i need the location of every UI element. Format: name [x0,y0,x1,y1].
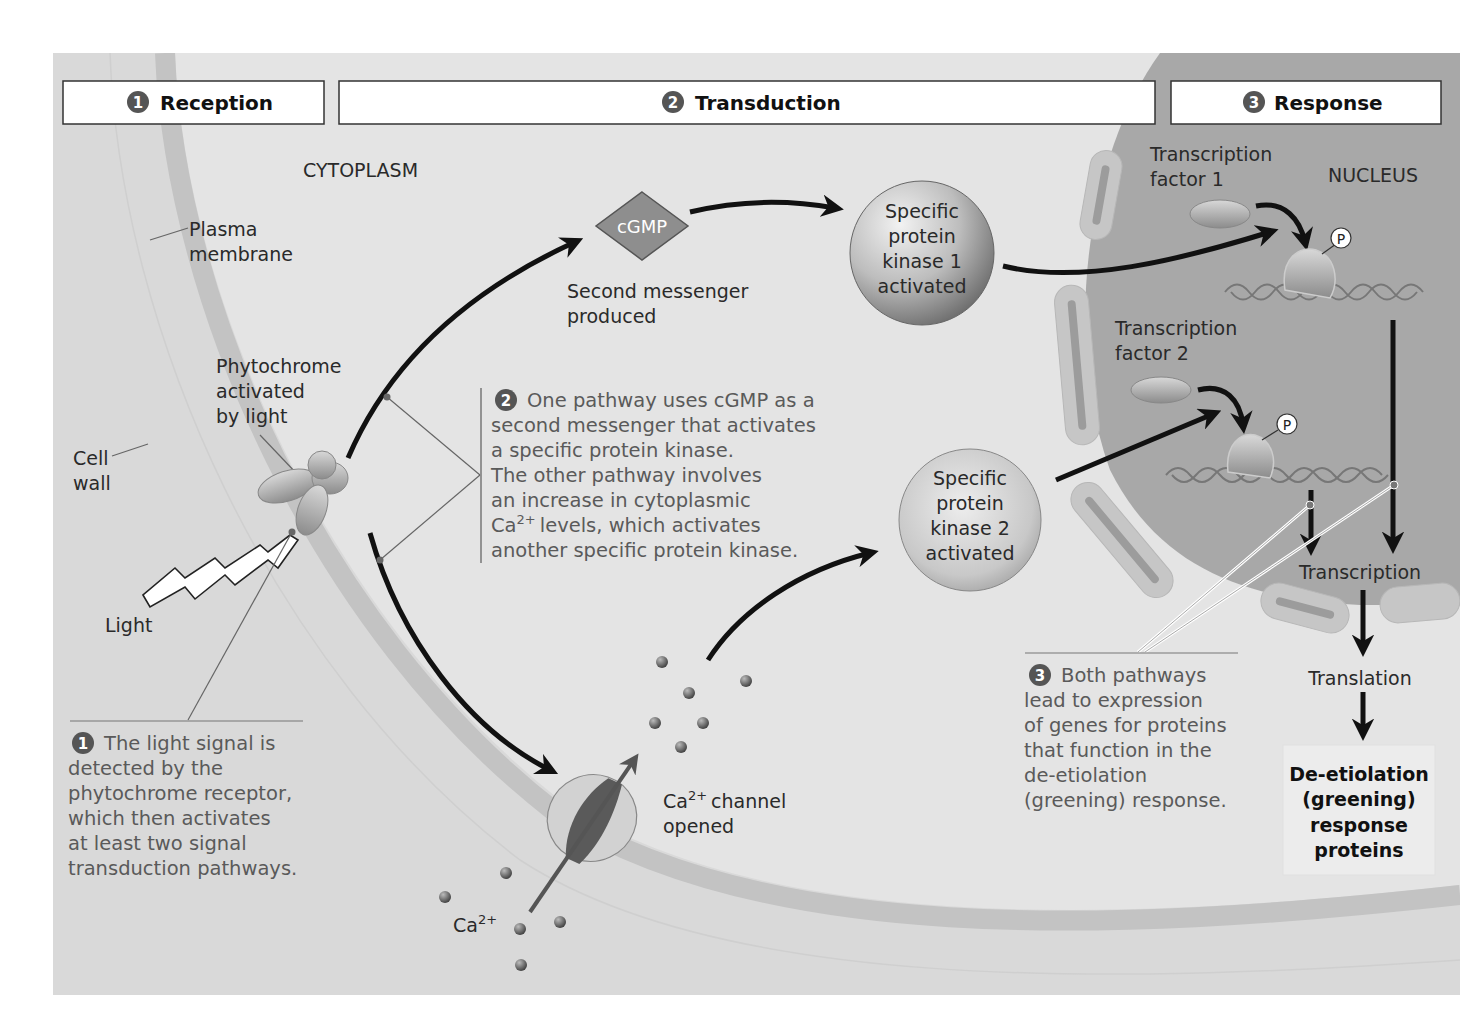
svg-text:lead to expression: lead to expression [1024,689,1203,712]
ca-channel-label-line1: Ca2+channel [663,788,786,812]
svg-text:kinase 1: kinase 1 [882,250,962,272]
header-reception: 1 Reception [63,81,324,124]
tf1-label-line2: factor 1 [1150,168,1224,190]
response-proteins-box: De-etiolation (greening) response protei… [1283,745,1435,875]
svg-text:2: 2 [668,94,678,112]
svg-text:kinase 2: kinase 2 [930,517,1010,539]
svg-text:that function in the: that function in the [1024,739,1212,762]
calcium-ion [697,717,709,729]
svg-text:an increase in cytoplasmic: an increase in cytoplasmic [491,489,751,512]
calcium-ion [740,675,752,687]
svg-text:P: P [1283,417,1291,433]
calcium-ion [675,741,687,753]
cell-wall-label-line2: wall [73,472,111,494]
bound-transcription-factor-1 [1284,249,1335,298]
second-messenger-label-line1: Second messenger [567,280,748,302]
calcium-ion [683,687,695,699]
header-label: Reception [160,91,273,115]
cytoplasm-label: CYTOPLASM [303,159,418,181]
calcium-ion [500,867,512,879]
header-transduction: 2 Transduction [339,81,1155,124]
svg-text:The other pathway involves: The other pathway involves [490,464,762,487]
svg-text:Specific: Specific [885,200,959,222]
svg-text:protein: protein [888,225,956,247]
svg-text:activated: activated [878,275,967,297]
svg-text:phytochrome receptor,: phytochrome receptor, [68,782,292,805]
svg-text:De-etiolation: De-etiolation [1289,763,1429,785]
translation-label: Translation [1307,667,1412,689]
svg-text:proteins: proteins [1314,839,1403,861]
calcium-ion [656,656,668,668]
svg-text:Both pathways: Both pathways [1061,664,1206,687]
svg-text:(greening): (greening) [1302,788,1415,810]
tf2-label-line1: Transcription [1114,317,1237,339]
svg-text:1: 1 [78,735,88,753]
svg-text:de-etiolation: de-etiolation [1024,764,1147,787]
protein-kinase-2: Specific protein kinase 2 activated [899,449,1041,591]
transcription-factor-1 [1190,200,1250,228]
svg-text:2: 2 [501,392,511,410]
diagram-stage: 1 Reception 2 Transduction 3 Response CY… [0,0,1473,1011]
svg-text:response: response [1310,814,1408,836]
header-label: Response [1274,91,1383,115]
cgmp-label: cGMP [617,216,667,237]
phytochrome-label-line2: activated [216,380,305,402]
signal-pathway-diagram: 1 Reception 2 Transduction 3 Response CY… [0,0,1473,1011]
svg-text:of genes for proteins: of genes for proteins [1024,714,1227,737]
svg-text:(greening) response.: (greening) response. [1024,789,1227,812]
leader-dot [289,529,296,536]
svg-text:which then activates: which then activates [68,807,271,830]
calcium-ion [649,717,661,729]
transcription-label: Transcription [1298,561,1421,583]
svg-text:another specific protein kinas: another specific protein kinase. [491,539,798,562]
svg-text:One pathway uses cGMP as a: One pathway uses cGMP as a [527,389,815,412]
svg-text:3: 3 [1035,667,1045,685]
svg-text:at least two signal: at least two signal [68,832,247,855]
nucleus-label: NUCLEUS [1328,164,1418,186]
svg-text:3: 3 [1249,94,1259,112]
calcium-ion [554,916,566,928]
tf1-label-line1: Transcription [1149,143,1272,165]
svg-text:a specific protein kinase.: a specific protein kinase. [491,439,734,462]
svg-text:second messenger that activate: second messenger that activates [491,414,816,437]
svg-text:transduction pathways.: transduction pathways. [68,857,297,880]
header-response: 3 Response [1171,81,1441,124]
tf2-label-line2: factor 2 [1115,342,1189,364]
cell-wall-label-line1: Cell [73,447,109,469]
svg-text:Specific: Specific [933,467,1007,489]
transcription-factor-2 [1131,377,1191,403]
second-messenger-label-line2: produced [567,305,656,327]
protein-kinase-1: Specific protein kinase 1 activated [850,181,994,325]
svg-text:activated: activated [926,542,1015,564]
calcium-ion [514,923,526,935]
svg-text:protein: protein [936,492,1004,514]
calcium-ion [439,891,451,903]
calcium-ion [515,959,527,971]
plasma-membrane-label-line2: membrane [189,243,293,265]
phytochrome-label-line1: Phytochrome [216,355,342,377]
svg-text:1: 1 [133,94,143,112]
plasma-membrane-label-line1: Plasma [189,218,257,240]
svg-text:The light signal is: The light signal is [103,732,275,755]
ca-channel-label-line2: opened [663,815,734,837]
svg-text:P: P [1337,231,1345,247]
header-label: Transduction [695,91,841,115]
light-label: Light [105,614,152,636]
phytochrome-label-line3: by light [216,405,287,427]
svg-text:detected by the: detected by the [68,757,223,780]
